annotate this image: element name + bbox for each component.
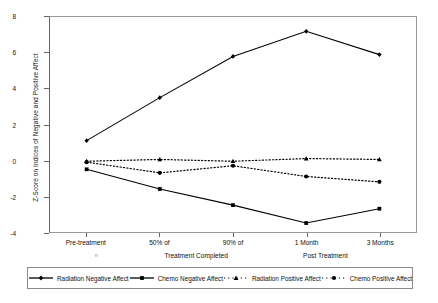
series-1 (84, 29, 381, 143)
x-tick-mark (380, 233, 381, 237)
x-tick-label: 50% of (149, 239, 170, 246)
y-tick-mark (44, 233, 49, 234)
x-tick-mark (233, 233, 234, 237)
y-tick-label: 0 (0, 157, 16, 164)
legend-label: Radiation Positive Affect (252, 275, 321, 282)
x-axis-group-label: Post Treatment (303, 252, 348, 259)
legend-label: Chemo Positive Affect (350, 275, 412, 282)
y-tick-label: 8 (0, 13, 16, 20)
plot-area (49, 16, 417, 233)
y-tick-label: 6 (0, 49, 16, 56)
series-3 (84, 156, 382, 163)
chart-series-layer (50, 17, 416, 232)
y-tick-label: 4 (0, 85, 16, 92)
series-2 (85, 167, 382, 225)
x-axis-group-label: Treatment Completed (164, 252, 228, 259)
x-tick-label: 3 Months (367, 239, 394, 246)
legend-swatch-triangle-icon (223, 274, 249, 282)
legend-swatch-circle-icon (321, 274, 347, 282)
chart-figure: Z-Score on Indices of Negative and Posit… (0, 0, 438, 303)
legend-swatch-diamond-icon (28, 274, 54, 282)
y-tick-label: -2 (0, 193, 16, 200)
x-tick-label: Pre-treatment (66, 239, 106, 246)
x-tick-mark (307, 233, 308, 237)
x-tick-label: 1 Month (295, 239, 319, 246)
legend-item-1[interactable]: Radiation Negative Affect (28, 274, 129, 282)
stray-annotation: n (95, 252, 98, 258)
x-tick-mark (159, 233, 160, 237)
y-tick-label: -4 (0, 230, 16, 237)
legend-item-2[interactable]: Chemo Negative Affect (129, 274, 223, 282)
legend-label: Radiation Negative Affect (57, 275, 129, 282)
legend-label: Chemo Negative Affect (158, 275, 223, 282)
legend-item-3[interactable]: Radiation Positive Affect (223, 274, 321, 282)
y-axis-title: Z-Score on Indices of Negative and Posit… (32, 23, 39, 233)
legend-item-4[interactable]: Chemo Positive Affect (321, 274, 412, 282)
y-tick-label: 2 (0, 121, 16, 128)
x-tick-label: 90% of (223, 239, 244, 246)
x-tick-mark (86, 233, 87, 237)
legend-swatch-square-icon (129, 274, 155, 282)
chart-legend: Radiation Negative AffectChemo Negative … (27, 267, 413, 289)
